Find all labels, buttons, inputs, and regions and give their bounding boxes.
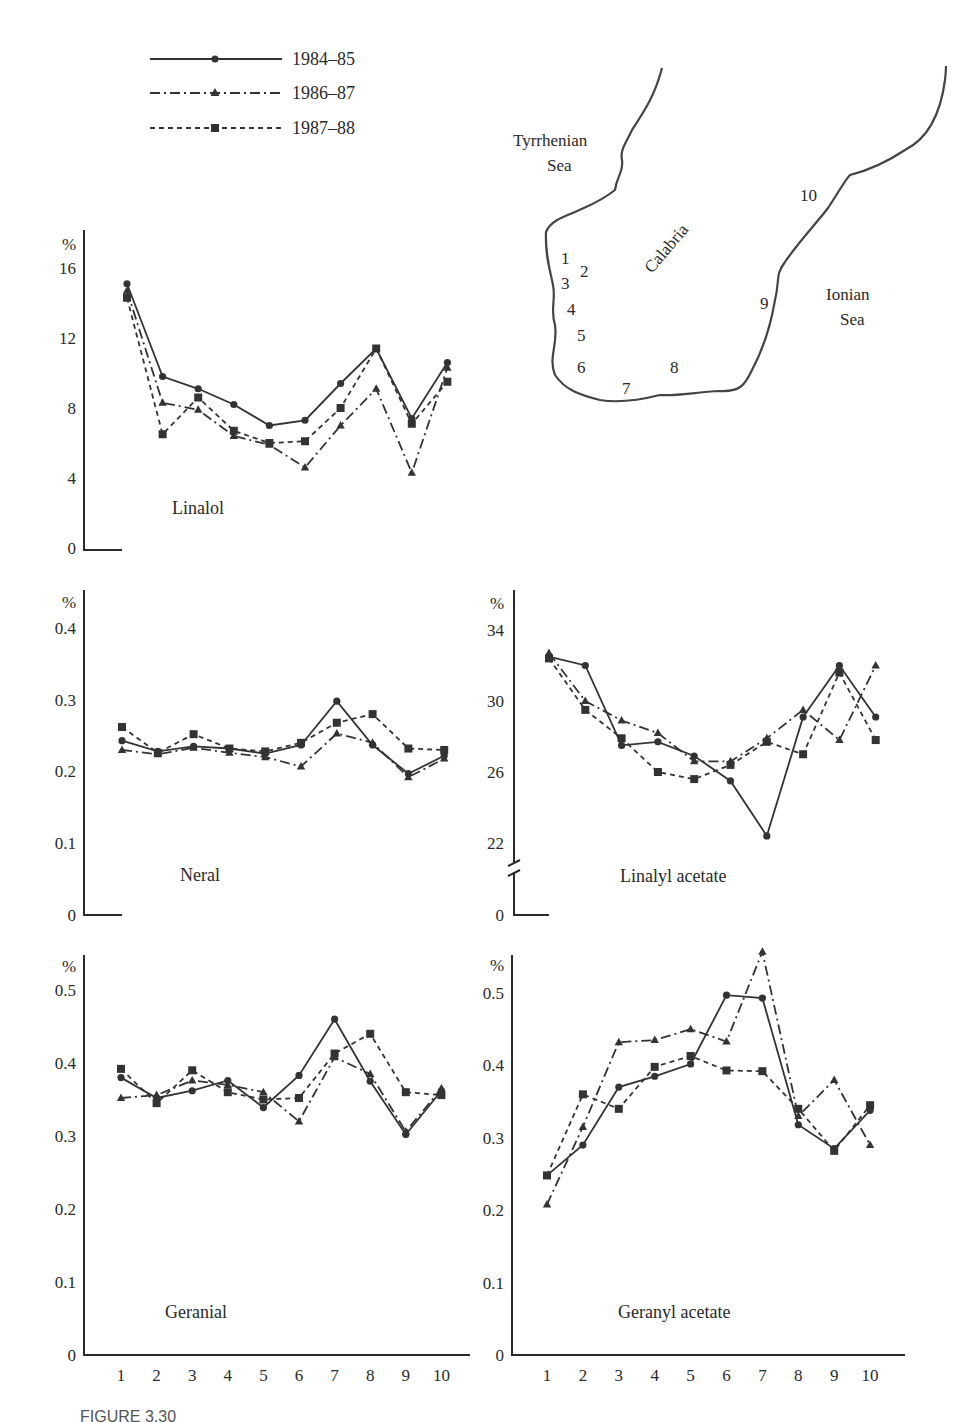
circle-marker-icon (295, 1072, 302, 1079)
map-label-ionian-sea: Sea (840, 310, 865, 329)
square-marker-icon (618, 734, 626, 742)
y-tick-label: 8 (68, 399, 77, 418)
square-marker-icon (117, 1065, 125, 1073)
square-marker-icon (259, 1096, 267, 1104)
circle-marker-icon (159, 373, 166, 380)
circle-marker-icon (763, 832, 770, 839)
triangle-marker-icon (372, 384, 380, 392)
square-marker-icon (190, 730, 198, 738)
y-tick-label: 0.3 (55, 1127, 76, 1146)
y-tick-label: 30 (487, 692, 504, 711)
chart-geranyl-acetate: %00.10.20.30.40.512345678910Geranyl acet… (483, 947, 905, 1385)
circle-marker-icon (118, 737, 125, 744)
x-tick-label: 6 (722, 1366, 731, 1385)
square-marker-icon (581, 706, 589, 714)
y-tick-label: 0 (68, 1346, 77, 1365)
y-tick-label: 0 (496, 1346, 505, 1365)
circle-marker-icon (266, 422, 273, 429)
map-label-ionian: Ionian (826, 285, 870, 304)
square-marker-icon (372, 345, 380, 353)
square-marker-icon (651, 1063, 659, 1071)
triangle-marker-icon (152, 1091, 160, 1099)
chart-linalol: %0481216Linalol (59, 230, 452, 558)
y-unit-label: % (62, 235, 76, 254)
triangle-marker-icon (686, 1025, 694, 1033)
x-tick-label: 3 (188, 1366, 197, 1385)
y-tick-label: 0.4 (55, 1054, 77, 1073)
y-unit-label: % (490, 594, 504, 613)
series-line-1987–88 (127, 298, 447, 443)
square-marker-icon (261, 747, 269, 755)
map-label-tyrrhenian: Tyrrhenian (513, 131, 588, 150)
x-tick-label: 5 (259, 1366, 268, 1385)
x-tick-label: 6 (295, 1366, 304, 1385)
square-marker-icon (366, 1030, 374, 1038)
y-tick-label: 0.5 (55, 981, 76, 1000)
y-tick-label: 0.5 (483, 984, 504, 1003)
chart-title: Geranyl acetate (618, 1302, 730, 1322)
triangle-marker-icon (866, 1141, 874, 1149)
coastline-west (546, 66, 946, 401)
x-tick-label: 7 (758, 1366, 767, 1385)
circle-marker-icon (333, 698, 340, 705)
legend-label: 1984–85 (292, 49, 355, 69)
circle-marker-icon (800, 713, 807, 720)
circle-marker-icon (618, 742, 625, 749)
x-tick-label: 8 (794, 1366, 803, 1385)
square-marker-icon (230, 427, 238, 435)
square-marker-icon (579, 1090, 587, 1098)
triangle-marker-icon (617, 716, 625, 724)
y-tick-label: 12 (59, 329, 76, 348)
legend-item-1987-88: 1987–88 (150, 118, 355, 138)
map-site-10: 10 (800, 186, 817, 205)
series-line-1986–87 (127, 291, 447, 473)
square-marker-icon (331, 1050, 339, 1058)
chart-title: Neral (180, 865, 220, 885)
square-marker-icon (404, 745, 412, 753)
x-tick-label: 8 (366, 1366, 375, 1385)
square-marker-icon (337, 404, 345, 412)
series-line-1986–87 (547, 952, 870, 1205)
y-tick-label: 0 (496, 906, 505, 925)
square-marker-icon (295, 1094, 303, 1102)
axes (84, 590, 122, 915)
map-site-5: 5 (577, 326, 586, 345)
square-marker-icon (543, 1171, 551, 1179)
y-tick-label: 0.2 (483, 1201, 504, 1220)
circle-marker-icon (331, 1016, 338, 1023)
circle-marker-icon (579, 1141, 586, 1148)
map-site-9: 9 (760, 294, 769, 313)
square-marker-icon (440, 746, 448, 754)
circle-marker-icon (212, 56, 219, 63)
map-site-2: 2 (580, 262, 589, 281)
y-tick-label: 0.1 (55, 1273, 76, 1292)
map-label-calabria: Calabria (641, 220, 693, 277)
legend-item-1986-87: 1986–87 (150, 83, 355, 103)
x-tick-label: 4 (224, 1366, 233, 1385)
square-marker-icon (188, 1066, 196, 1074)
square-marker-icon (153, 1099, 161, 1107)
square-marker-icon (333, 719, 341, 727)
square-marker-icon (154, 749, 162, 757)
square-marker-icon (159, 430, 167, 438)
series-line-1984–85 (121, 1019, 441, 1134)
circle-marker-icon (195, 385, 202, 392)
circle-marker-icon (727, 777, 734, 784)
triangle-marker-icon (118, 745, 126, 753)
square-marker-icon (615, 1105, 623, 1113)
series-line-1984–85 (549, 657, 876, 836)
map-site-8: 8 (670, 358, 679, 377)
square-marker-icon (545, 654, 553, 662)
square-marker-icon (723, 1066, 731, 1074)
axis-break-icon (508, 860, 520, 876)
axes (84, 230, 122, 550)
y-tick-label: 26 (487, 763, 504, 782)
chart-linalyl-acetate: %022263034Linalyl acetate (487, 590, 880, 925)
circle-marker-icon (651, 1073, 658, 1080)
square-marker-icon (265, 439, 273, 447)
y-unit-label: % (490, 956, 504, 975)
circle-marker-icon (582, 662, 589, 669)
square-marker-icon (866, 1101, 874, 1109)
circle-marker-icon (654, 738, 661, 745)
square-marker-icon (690, 775, 698, 783)
